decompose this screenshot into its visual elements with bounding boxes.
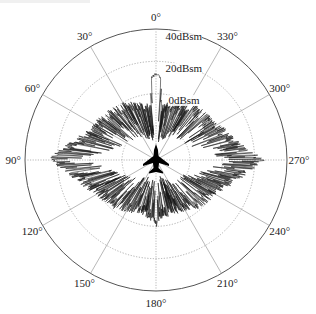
radial-label-20: 20dBsm (166, 63, 203, 74)
angle-label-0: 0° (151, 12, 161, 23)
angle-label-300: 300° (269, 83, 290, 94)
angle-label-240: 240° (269, 226, 290, 237)
angle-label-180: 180° (146, 298, 167, 309)
angle-label-120: 120° (22, 226, 43, 237)
angle-label-330: 330° (217, 31, 238, 42)
angle-label-150: 150° (74, 278, 95, 289)
radial-label-40: 40dBsm (166, 31, 203, 42)
aircraft-silhouette-icon (143, 144, 169, 174)
angle-label-90: 90° (6, 155, 21, 166)
radial-label-0: 0dBsm (169, 95, 200, 106)
angle-label-270: 270° (289, 155, 310, 166)
polar-rcs-chart (0, 0, 316, 314)
angle-label-210: 210° (217, 278, 238, 289)
aircraft-shape (143, 144, 169, 174)
angle-label-30: 30° (77, 31, 92, 42)
angle-label-60: 60° (25, 83, 40, 94)
